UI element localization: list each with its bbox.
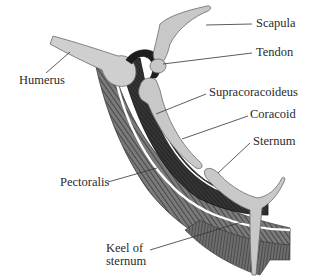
- label-pectoralis: Pectoralis: [60, 176, 109, 189]
- label-scapula: Scapula: [256, 17, 296, 30]
- glenoid-process: [150, 59, 166, 73]
- label-humerus: Humerus: [19, 74, 65, 87]
- scapula-bone: [153, 6, 210, 64]
- leader-coracoid: [182, 116, 248, 139]
- label-keel-line2: sternum: [106, 255, 146, 268]
- leader-humerus: [46, 52, 70, 73]
- leader-tendon: [163, 53, 252, 64]
- leader-scapula: [206, 24, 252, 25]
- leader-sternum: [218, 143, 250, 173]
- label-supracoracoideus: Supracoracoideus: [209, 86, 298, 99]
- label-tendon: Tendon: [256, 46, 293, 59]
- label-sternum: Sternum: [253, 135, 295, 148]
- label-coracoid: Coracoid: [250, 108, 296, 121]
